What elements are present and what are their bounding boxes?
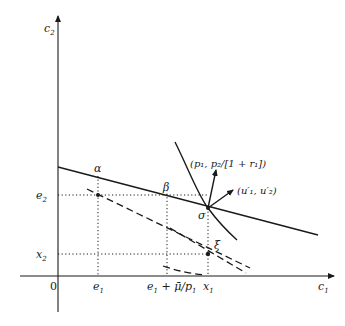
y-tick-e2: e2 [36, 189, 48, 204]
alpha-label: α [94, 162, 102, 175]
origin-label: 0 [50, 280, 57, 293]
xi-point [206, 252, 210, 256]
x-tick-e1: e1 [93, 280, 104, 295]
x-tick-e1-plus-mu: e1 + μ̄/p1 [147, 280, 197, 295]
endowment-point [96, 193, 100, 197]
indifference-curve [175, 142, 237, 240]
diagram-canvas: c2 c1 0 e2 x2 e1 e1 + μ̄/p1 x1 α β σ ξ (… [0, 0, 345, 326]
budget-line [58, 167, 318, 235]
y-tick-x2: x2 [36, 248, 47, 263]
beta-label: β [162, 181, 169, 194]
utility-gradient-label: (u′₁, u′₂) [237, 185, 277, 196]
x-axis-label: c1 [318, 280, 329, 295]
x-tick-x1: x1 [203, 280, 214, 295]
y-axis-label: c2 [44, 22, 55, 37]
dashed-lower-curve [163, 266, 206, 275]
xi-label: ξ [214, 239, 221, 252]
price-vector-label: (p₁, p₂/[1 + r₁]) [190, 158, 266, 169]
sigma-label: σ [198, 209, 206, 222]
